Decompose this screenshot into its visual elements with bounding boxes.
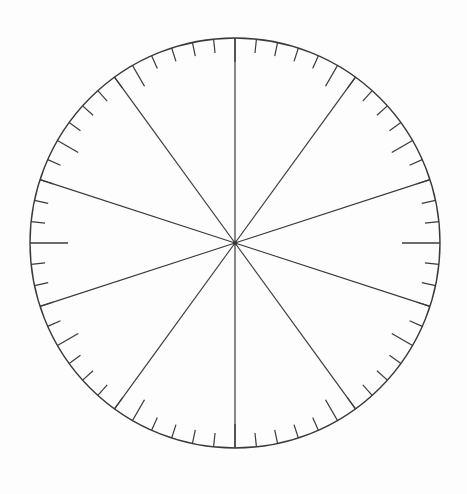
tick-minor	[390, 355, 401, 363]
tick-minor	[214, 39, 215, 53]
center-point	[233, 241, 237, 245]
spoke-line-2	[235, 77, 356, 243]
tick-minor	[275, 430, 278, 444]
tick-minor	[83, 371, 93, 380]
tick-minor	[294, 425, 298, 438]
tick-major	[326, 400, 338, 421]
tick-minor	[69, 123, 80, 131]
tick-minor	[422, 200, 436, 203]
tick-minor	[192, 42, 195, 56]
tick-major	[57, 334, 78, 346]
tick-minor	[377, 106, 387, 115]
tick-minor	[409, 321, 422, 327]
tick-minor	[313, 56, 319, 69]
tick-minor	[275, 42, 278, 56]
tick-minor	[98, 91, 107, 101]
tick-minor	[192, 430, 195, 444]
tick-minor	[425, 222, 439, 223]
tick-minor	[255, 39, 256, 53]
tick-minor	[31, 263, 45, 264]
tick-major	[133, 400, 145, 421]
tick-minor	[422, 283, 436, 286]
tick-minor	[214, 433, 215, 447]
tick-minor	[390, 123, 401, 131]
tick-minor	[377, 371, 387, 380]
spoke-line-10	[115, 77, 236, 243]
tick-minor	[409, 160, 422, 166]
tick-major	[57, 141, 78, 153]
tick-major	[392, 141, 413, 153]
tick-minor	[172, 48, 176, 61]
spoke-line-7	[115, 243, 236, 409]
tick-minor	[34, 200, 48, 203]
tick-minor	[425, 263, 439, 264]
spoke-line-8	[40, 243, 235, 306]
tick-minor	[363, 385, 372, 395]
circular-protractor-svg	[0, 0, 467, 494]
spoke-line-9	[40, 180, 235, 243]
tick-minor	[152, 417, 158, 430]
tick-minor	[313, 417, 319, 430]
spoke-line-3	[235, 180, 430, 243]
tick-minor	[152, 56, 158, 69]
tick-minor	[98, 385, 107, 395]
tick-minor	[48, 321, 61, 327]
spoke-line-4	[235, 243, 430, 306]
spoke-line-5	[235, 243, 356, 409]
tick-minor	[255, 433, 256, 447]
tick-minor	[69, 355, 80, 363]
tick-major	[392, 334, 413, 346]
tick-minor	[48, 160, 61, 166]
tick-minor	[363, 91, 372, 101]
tick-minor	[34, 283, 48, 286]
tick-minor	[294, 48, 298, 61]
tick-minor	[83, 106, 93, 115]
figure-canvas	[0, 0, 467, 494]
tick-minor	[172, 425, 176, 438]
tick-major	[326, 65, 338, 86]
tick-major	[133, 65, 145, 86]
tick-minor	[31, 222, 45, 223]
